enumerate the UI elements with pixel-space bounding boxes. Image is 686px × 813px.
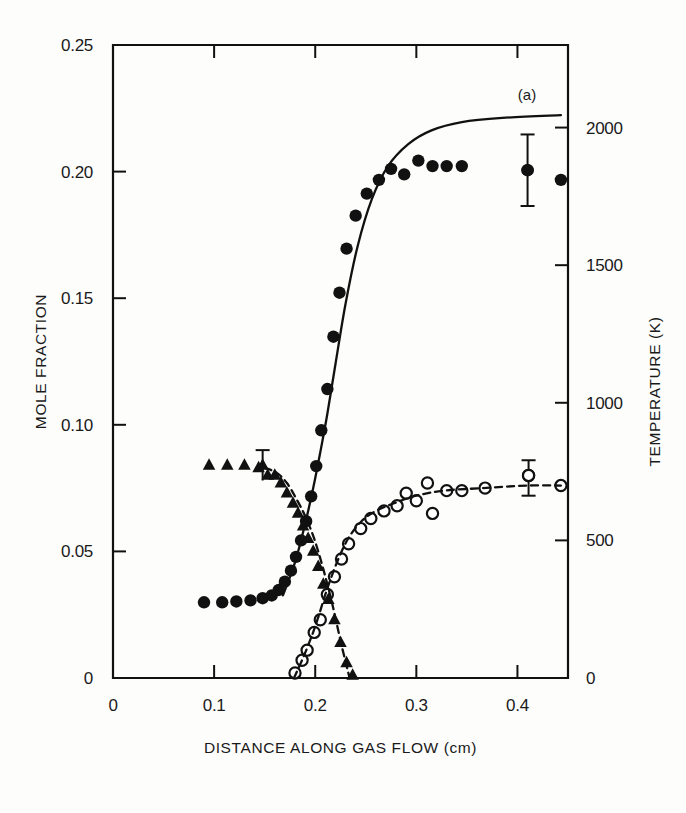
left-tick-label-2: 0.10 (61, 416, 93, 435)
data-point (398, 168, 410, 180)
data-point (244, 594, 256, 606)
data-point (412, 154, 424, 166)
data-point (355, 523, 366, 534)
plot-frame (113, 45, 568, 678)
left-tick-label-5: 0.25 (61, 36, 93, 55)
error-bar-product-error-bar (522, 460, 536, 495)
bottom-tick-label-3: 0.3 (405, 696, 428, 715)
left-tick-label-4: 0.20 (61, 163, 93, 182)
bottom-tick-label-2: 0.2 (304, 696, 327, 715)
series-temperature-model-curve (283, 115, 561, 595)
right-tick-label-1: 500 (586, 531, 613, 550)
data-point (426, 160, 438, 172)
series-product-mole-fraction (289, 470, 566, 679)
data-point (456, 485, 467, 496)
data-point (333, 287, 345, 299)
data-point (521, 164, 533, 176)
data-point (216, 596, 228, 608)
data-point (523, 470, 534, 481)
data-point (349, 209, 361, 221)
data-point (422, 477, 433, 488)
bottom-tick-label-1: 0.1 (203, 696, 226, 715)
data-point (555, 174, 567, 186)
chart-canvas: 00.050.100.150.200.25MOLE FRACTION050010… (0, 0, 686, 813)
data-point (456, 160, 468, 172)
data-point (238, 458, 251, 470)
bottom-tick-label-4: 0.4 (506, 696, 529, 715)
left-tick-label-3: 0.15 (61, 289, 93, 308)
right-tick-label-4: 2000 (586, 119, 623, 138)
panel-label-text: (a) (518, 86, 536, 103)
data-point (440, 160, 452, 172)
data-point (203, 458, 216, 470)
right-axis-title-text: TEMPERATURE (K) (646, 317, 663, 467)
bottom-axis-title-text: DISTANCE ALONG GAS FLOW (cm) (204, 739, 477, 756)
data-point (327, 331, 339, 343)
bottom-tick-label-0: 0 (108, 696, 117, 715)
data-point (198, 596, 210, 608)
data-point (340, 242, 352, 254)
right-tick-label-3: 1500 (586, 256, 623, 275)
left-tick-label-1: 0.05 (61, 542, 93, 561)
left-tick-label-0: 0 (84, 669, 93, 688)
data-point (401, 488, 412, 499)
right-tick-label-2: 1000 (586, 394, 623, 413)
figure-root: 00.050.100.150.200.25MOLE FRACTION050010… (0, 0, 686, 813)
series-reactant-mole-fraction (203, 458, 359, 680)
data-point (221, 458, 234, 470)
error-bar-temperature-error-bar (521, 134, 535, 206)
data-point (392, 500, 403, 511)
data-point (230, 595, 242, 607)
curve-temperature-model-curve (283, 115, 561, 595)
left-axis-title-text: MOLE FRACTION (32, 294, 49, 429)
data-point (427, 508, 438, 519)
series-temperature-measured (198, 154, 567, 608)
right-tick-label-0: 0 (586, 669, 595, 688)
